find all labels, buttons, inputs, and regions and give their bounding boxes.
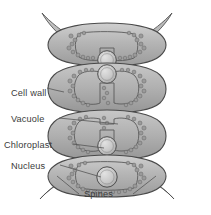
cell-2	[48, 63, 166, 113]
label-chloroplast: Chloroplast	[4, 140, 52, 150]
label-vacuole: Vacuole	[11, 114, 45, 124]
cell-diagram: Cell wall Vacuole Chloroplast Nucleus Sp…	[0, 0, 211, 215]
figure-canvas: Cell wall Vacuole Chloroplast Nucleus Sp…	[0, 0, 211, 215]
label-spines: Spines	[84, 189, 113, 199]
cell-3	[48, 110, 166, 160]
label-cell-wall: Cell wall	[11, 88, 47, 98]
label-nucleus: Nucleus	[11, 161, 45, 171]
cell-1	[48, 23, 166, 69]
